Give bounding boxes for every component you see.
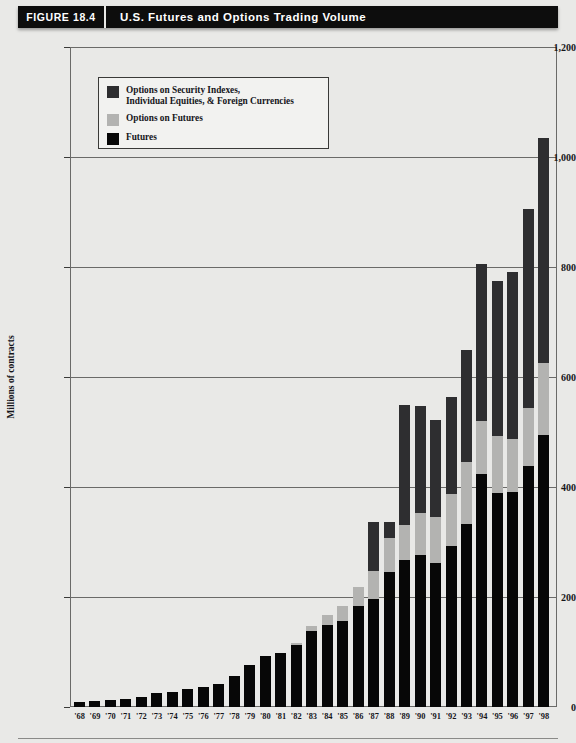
bar-segment-options-on-futures — [492, 436, 503, 492]
bar-stack — [306, 626, 317, 707]
x-tick-label: '95 — [492, 712, 503, 721]
bar-segment-futures — [430, 563, 441, 707]
bar-stack — [167, 692, 178, 707]
bar-stack — [120, 699, 131, 707]
bar-stack — [229, 676, 240, 707]
x-tick-label: '94 — [477, 712, 488, 721]
y-axis-title: Millions of contracts — [6, 335, 16, 418]
bar-segment-futures — [384, 572, 395, 707]
legend-swatch-futures — [107, 133, 119, 145]
bar-segment-options-on-futures — [322, 615, 333, 625]
bar-stack — [182, 689, 193, 707]
bar-stack — [399, 405, 410, 707]
bar-segment-options-indexes — [476, 264, 487, 421]
bar-stack — [353, 587, 364, 707]
bar-segment-options-indexes — [538, 138, 549, 364]
bar-segment-futures — [167, 692, 178, 707]
bar-segment-futures — [492, 493, 503, 708]
bar-stack — [105, 700, 116, 707]
bar-segment-options-indexes — [399, 405, 410, 525]
bar-stack — [151, 693, 162, 707]
x-tick-label: '82 — [291, 712, 302, 721]
bar-segment-options-indexes — [415, 406, 426, 514]
bar-stack — [244, 665, 255, 707]
bar-stack — [446, 397, 457, 707]
x-tick-label: '71 — [121, 712, 132, 721]
legend-label: Options on Futures — [126, 113, 203, 124]
bar-segment-options-indexes — [430, 420, 441, 517]
x-tick-label: '90 — [415, 712, 426, 721]
bar-segment-futures — [353, 606, 364, 707]
legend-swatch-options_on_futures — [107, 114, 119, 126]
bar-segment-futures — [105, 700, 116, 707]
bar-segment-futures — [337, 621, 348, 707]
x-tick-label: '78 — [229, 712, 240, 721]
x-tick-label: '73 — [152, 712, 163, 721]
bar-segment-options-on-futures — [415, 513, 426, 555]
bar-segment-options-indexes — [446, 397, 457, 494]
bar-segment-futures — [291, 645, 302, 707]
bar-segment-options-indexes — [492, 281, 503, 436]
x-tick-label: '75 — [183, 712, 194, 721]
bar-segment-futures — [507, 492, 518, 707]
bar-segment-options-on-futures — [461, 462, 472, 524]
chart-legend: Options on Security Indexes,Individual E… — [98, 77, 329, 149]
x-tick-label: '97 — [523, 712, 534, 721]
bar-stack — [523, 209, 534, 707]
bar-segment-futures — [275, 653, 286, 707]
x-tick-label: '72 — [136, 712, 147, 721]
bar-stack — [291, 643, 302, 707]
bar-segment-options-on-futures — [476, 421, 487, 474]
bar-segment-futures — [446, 546, 457, 707]
bar-segment-futures — [415, 555, 426, 707]
bar-segment-options-indexes — [461, 350, 472, 463]
x-tick-label: '87 — [368, 712, 379, 721]
x-tick-label: '69 — [90, 712, 101, 721]
x-tick-label: '76 — [198, 712, 209, 721]
x-tick-label: '89 — [399, 712, 410, 721]
bar-segment-futures — [244, 665, 255, 707]
bar-segment-futures — [538, 435, 549, 707]
bar-stack — [136, 697, 147, 707]
bar-segment-options-on-futures — [430, 517, 441, 563]
x-tick-label: '85 — [337, 712, 348, 721]
bar-stack — [538, 138, 549, 707]
x-tick-label: '98 — [539, 712, 550, 721]
x-tick-label: '96 — [508, 712, 519, 721]
legend-swatch-options_indexes_equities_fx — [107, 86, 119, 98]
bar-segment-options-on-futures — [337, 606, 348, 620]
x-tick-label: '91 — [430, 712, 441, 721]
bar-segment-options-on-futures — [507, 439, 518, 492]
x-tick-label: '68 — [74, 712, 85, 721]
x-tick-label: '70 — [105, 712, 116, 721]
bar-segment-options-indexes — [384, 522, 395, 538]
legend-item: Options on Security Indexes,Individual E… — [107, 85, 320, 107]
bar-segment-futures — [213, 684, 224, 707]
x-tick-label: '81 — [275, 712, 286, 721]
x-tick-label: '74 — [167, 712, 178, 721]
bar-segment-options-on-futures — [384, 538, 395, 572]
bottom-rule — [18, 738, 558, 739]
bar-stack — [198, 687, 209, 707]
bar-segment-futures — [89, 701, 100, 707]
bar-segment-options-on-futures — [368, 571, 379, 599]
bar-segment-futures — [136, 697, 147, 707]
bar-segment-futures — [322, 625, 333, 707]
x-tick-label: '86 — [353, 712, 364, 721]
x-tick-label: '84 — [322, 712, 333, 721]
bar-segment-futures — [260, 656, 271, 707]
bar-stack — [384, 522, 395, 707]
bar-stack — [476, 264, 487, 707]
bar-stack — [368, 522, 379, 707]
bar-segment-futures — [399, 560, 410, 707]
bar-stack — [461, 350, 472, 707]
x-tick-label: '93 — [461, 712, 472, 721]
bar-segment-futures — [476, 474, 487, 707]
x-tick-label: '83 — [306, 712, 317, 721]
bar-segment-futures — [182, 689, 193, 707]
bar-stack — [260, 656, 271, 707]
bar-segment-futures — [74, 702, 85, 708]
bar-stack — [337, 606, 348, 707]
bar-segment-futures — [306, 631, 317, 707]
bar-segment-options-on-futures — [399, 525, 410, 560]
